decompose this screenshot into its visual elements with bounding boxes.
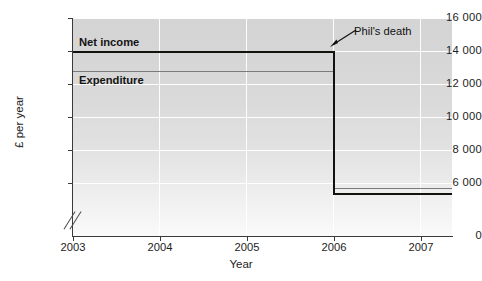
y-tick-label-14000: 14 000: [416, 44, 482, 56]
y-tick-mark-16000: [68, 18, 73, 19]
y-tick-label-10000: 10 000: [416, 110, 482, 122]
y-tick-mark-14000: [68, 51, 73, 52]
y-axis-title: £ per year: [13, 72, 25, 172]
y-tick-mark-12000: [68, 84, 73, 85]
y-tick-label-6000: 6 000: [416, 176, 482, 188]
x-tick-label-2003: 2003: [43, 241, 103, 253]
x-tick-label-2004: 2004: [130, 241, 190, 253]
y-axis-break-icon: [63, 208, 85, 234]
series-expenditure-segment-pre: [73, 71, 334, 72]
x-axis-line: [72, 236, 453, 237]
y-tick-label-zero: 0: [416, 229, 482, 241]
annotation-phils-death: Phil's death: [354, 25, 412, 37]
chart-figure: Net income Expenditure Phil's death 16 0…: [0, 0, 482, 281]
x-tick-label-2006: 2006: [304, 241, 364, 253]
gridline-h-6000: [73, 183, 452, 184]
series-label-net-income: Net income: [79, 36, 139, 48]
gridline-h-10000: [73, 117, 452, 118]
y-tick-mark-6000: [68, 183, 73, 184]
x-tick-label-2005: 2005: [217, 241, 277, 253]
gridline-h-16000: [73, 18, 452, 19]
y-tick-label-8000: 8 000: [416, 143, 482, 155]
x-tick-label-2007: 2007: [391, 241, 451, 253]
y-tick-mark-8000: [68, 150, 73, 151]
series-expenditure-segment-post: [333, 188, 452, 189]
y-tick-mark-10000: [68, 117, 73, 118]
y-tick-label-12000: 12 000: [416, 77, 482, 89]
series-net-income-segment-drop: [333, 51, 335, 194]
series-label-expenditure: Expenditure: [79, 74, 144, 86]
plot-area: [73, 18, 452, 237]
series-net-income-segment-pre: [73, 51, 335, 53]
x-axis-title: Year: [0, 258, 482, 270]
y-tick-label-16000: 16 000: [416, 11, 482, 23]
gridline-h-8000: [73, 150, 452, 151]
series-net-income-segment-post: [333, 193, 452, 195]
